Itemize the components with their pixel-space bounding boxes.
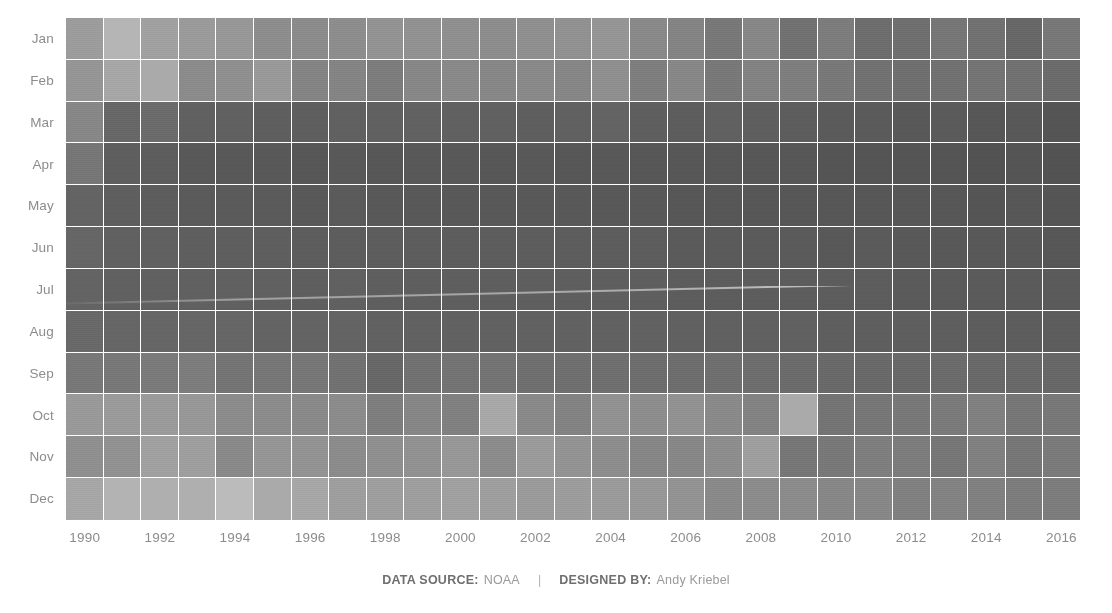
heatmap-cell[interactable] [705,394,743,436]
heatmap-cell[interactable] [66,143,104,185]
heatmap-cell[interactable] [442,18,480,60]
heatmap-cell[interactable] [141,394,179,436]
heatmap-cell[interactable] [705,269,743,311]
heatmap-cell[interactable] [630,185,668,227]
heatmap-cell[interactable] [1043,185,1080,227]
heatmap-cell[interactable] [480,394,518,436]
heatmap-cell[interactable] [66,269,104,311]
heatmap-cell[interactable] [855,18,893,60]
heatmap-cell[interactable] [480,436,518,478]
heatmap-cell[interactable] [254,102,292,144]
heatmap-cell[interactable] [329,478,367,520]
heatmap-cell[interactable] [855,311,893,353]
heatmap-cell[interactable] [780,227,818,269]
heatmap-cell[interactable] [1006,269,1044,311]
heatmap-cell[interactable] [968,227,1006,269]
heatmap-cell[interactable] [517,311,555,353]
heatmap-cell[interactable] [141,436,179,478]
heatmap-cell[interactable] [367,60,405,102]
heatmap-cell[interactable] [66,311,104,353]
heatmap-cell[interactable] [555,269,593,311]
heatmap-cell[interactable] [1043,227,1080,269]
heatmap-cell[interactable] [404,143,442,185]
heatmap-cell[interactable] [292,143,330,185]
heatmap-cell[interactable] [968,353,1006,395]
heatmap-cell[interactable] [1043,436,1080,478]
heatmap-cell[interactable] [517,227,555,269]
heatmap-cell[interactable] [517,394,555,436]
heatmap-cell[interactable] [630,311,668,353]
heatmap-cell[interactable] [480,185,518,227]
heatmap-cell[interactable] [367,436,405,478]
heatmap-cell[interactable] [855,60,893,102]
heatmap-cell[interactable] [1043,311,1080,353]
heatmap-cell[interactable] [1006,311,1044,353]
heatmap-cell[interactable] [367,143,405,185]
heatmap-cell[interactable] [743,185,781,227]
heatmap-cell[interactable] [517,143,555,185]
heatmap-cell[interactable] [968,60,1006,102]
heatmap-cell[interactable] [141,185,179,227]
heatmap-cell[interactable] [668,478,706,520]
heatmap-cell[interactable] [1006,478,1044,520]
heatmap-cell[interactable] [893,60,931,102]
heatmap-cell[interactable] [818,436,856,478]
heatmap-cell[interactable] [1006,353,1044,395]
heatmap-cell[interactable] [254,227,292,269]
heatmap-cell[interactable] [855,185,893,227]
heatmap-cell[interactable] [517,353,555,395]
heatmap-cell[interactable] [179,436,217,478]
heatmap-cell[interactable] [292,227,330,269]
heatmap-cell[interactable] [254,311,292,353]
heatmap-cell[interactable] [630,394,668,436]
heatmap-cell[interactable] [743,102,781,144]
heatmap-cell[interactable] [555,394,593,436]
heatmap-cell[interactable] [780,102,818,144]
heatmap-cell[interactable] [818,227,856,269]
heatmap-cell[interactable] [254,18,292,60]
heatmap-cell[interactable] [292,102,330,144]
heatmap-cell[interactable] [893,102,931,144]
heatmap-cell[interactable] [592,436,630,478]
heatmap-cell[interactable] [1043,269,1080,311]
heatmap-cell[interactable] [254,394,292,436]
heatmap-cell[interactable] [404,394,442,436]
heatmap-cell[interactable] [630,18,668,60]
heatmap-cell[interactable] [179,311,217,353]
heatmap-cell[interactable] [743,18,781,60]
heatmap-cell[interactable] [480,143,518,185]
heatmap-cell[interactable] [780,60,818,102]
heatmap-cell[interactable] [705,60,743,102]
heatmap-cell[interactable] [329,394,367,436]
heatmap-cell[interactable] [743,353,781,395]
heatmap-cell[interactable] [254,478,292,520]
heatmap-cell[interactable] [254,269,292,311]
heatmap-cell[interactable] [480,311,518,353]
heatmap-cell[interactable] [1006,143,1044,185]
heatmap-cell[interactable] [179,102,217,144]
heatmap-cell[interactable] [668,102,706,144]
heatmap-cell[interactable] [367,269,405,311]
heatmap-cell[interactable] [292,18,330,60]
heatmap-cell[interactable] [141,102,179,144]
heatmap-cell[interactable] [818,60,856,102]
heatmap-cell[interactable] [705,185,743,227]
heatmap-cell[interactable] [66,353,104,395]
heatmap-cell[interactable] [141,18,179,60]
heatmap-cell[interactable] [1043,394,1080,436]
heatmap-cell[interactable] [1006,60,1044,102]
heatmap-cell[interactable] [743,227,781,269]
heatmap-cell[interactable] [517,436,555,478]
heatmap-cell[interactable] [480,478,518,520]
heatmap-cell[interactable] [855,143,893,185]
heatmap-cell[interactable] [66,394,104,436]
heatmap-cell[interactable] [179,18,217,60]
heatmap-cell[interactable] [893,394,931,436]
heatmap-cell[interactable] [367,353,405,395]
heatmap-cell[interactable] [668,143,706,185]
heatmap-cell[interactable] [855,102,893,144]
heatmap-cell[interactable] [367,227,405,269]
heatmap-cell[interactable] [743,269,781,311]
heatmap-cell[interactable] [216,102,254,144]
heatmap-cell[interactable] [329,436,367,478]
